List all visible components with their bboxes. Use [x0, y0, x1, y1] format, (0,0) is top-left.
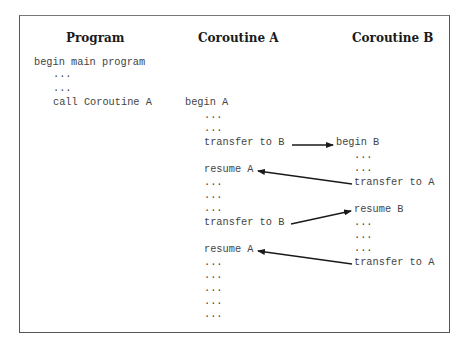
arrow-a-to-resume-b — [291, 211, 351, 224]
transfer-arrows — [0, 0, 466, 350]
arrow-b-to-resume-a-2 — [258, 251, 352, 264]
arrow-b-to-resume-a-1 — [258, 171, 352, 184]
